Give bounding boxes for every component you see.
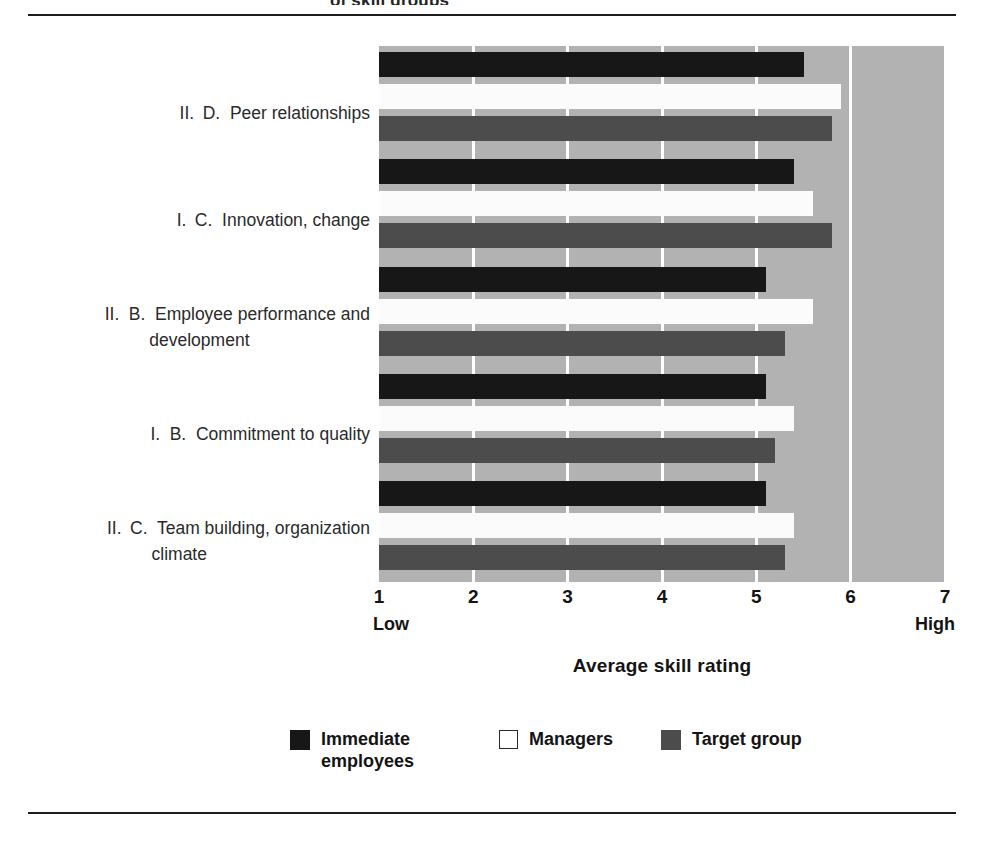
bar-band <box>379 223 945 248</box>
category-letter: C. <box>186 207 212 233</box>
x-tick-label-1: 1 <box>374 586 385 608</box>
category-text: Innovation, change <box>212 207 370 233</box>
legend-swatch-immediate-employees <box>290 730 310 750</box>
bar-band <box>379 299 945 324</box>
bar-band <box>379 374 945 399</box>
category-letter: C. <box>122 515 148 541</box>
bar-band <box>379 267 945 292</box>
category-text: Employee performance and <box>145 301 370 327</box>
legend-swatch-target-group <box>661 730 681 750</box>
x-tick-label-3: 3 <box>562 586 573 608</box>
axis-high-cap: High <box>915 614 955 635</box>
bar-immediate-employees-group-1 <box>379 52 804 77</box>
bar-immediate-employees-group-2 <box>379 159 794 184</box>
category-letter: D. <box>194 100 220 126</box>
bar-target-group-group-4 <box>379 438 775 463</box>
category-label-5: II. C. Team building, organizationclimat… <box>96 515 370 567</box>
clipped-title-text: of skill groups <box>330 0 710 5</box>
chart-legend: Immediate employeesManagersTarget group <box>290 728 850 790</box>
bar-managers-group-1 <box>379 84 841 109</box>
category-text: Team building, organization <box>148 515 370 541</box>
bar-band <box>379 191 945 216</box>
x-tick-label-4: 4 <box>657 586 668 608</box>
category-label-3: II. B. Employee performance anddevelopme… <box>93 301 370 353</box>
bar-band <box>379 438 945 463</box>
category-label-4: I. B. Commitment to quality <box>134 421 370 447</box>
x-axis-title: Average skill rating <box>379 655 945 677</box>
category-text: Peer relationships <box>220 100 370 126</box>
x-axis: Low High 1234567 <box>379 586 945 646</box>
top-rule <box>28 14 956 16</box>
bar-band <box>379 545 945 570</box>
x-tick-label-7: 7 <box>940 586 951 608</box>
category-letter: B. <box>119 301 145 327</box>
category-roman: II. <box>96 515 122 541</box>
category-label-column: II. D. Peer relationshipsI. C. Innovatio… <box>30 44 370 584</box>
x-tick-label-6: 6 <box>845 586 856 608</box>
category-roman: II. <box>93 301 119 327</box>
bar-band <box>379 116 945 141</box>
bar-target-group-group-3 <box>379 331 785 356</box>
bottom-rule <box>28 812 956 814</box>
bar-immediate-employees-group-3 <box>379 267 766 292</box>
category-text-continued: climate <box>96 541 370 567</box>
bar-band <box>379 159 945 184</box>
chart-figure: of skill groups II. D. Peer relationship… <box>0 0 984 847</box>
bar-band <box>379 331 945 356</box>
category-letter: B. <box>160 421 186 447</box>
category-roman: I. <box>134 421 160 447</box>
bar-band <box>379 481 945 506</box>
category-roman: II. <box>168 100 194 126</box>
category-label-2: I. C. Innovation, change <box>160 207 370 233</box>
x-tick-label-2: 2 <box>468 586 479 608</box>
bar-managers-group-3 <box>379 299 813 324</box>
bar-immediate-employees-group-4 <box>379 374 766 399</box>
plot-area <box>379 46 945 582</box>
legend-label-immediate-employees: Immediate employees <box>321 728 451 772</box>
bar-target-group-group-1 <box>379 116 832 141</box>
legend-swatch-managers <box>499 730 518 749</box>
bar-target-group-group-2 <box>379 223 832 248</box>
legend-label-managers: Managers <box>529 728 613 750</box>
bar-managers-group-2 <box>379 191 813 216</box>
bar-immediate-employees-group-5 <box>379 481 766 506</box>
legend-item-target-group[interactable]: Target group <box>661 728 802 750</box>
category-text-continued: development <box>93 327 370 353</box>
bar-managers-group-5 <box>379 513 794 538</box>
category-label-1: II. D. Peer relationships <box>168 100 370 126</box>
x-tick-label-5: 5 <box>751 586 762 608</box>
bar-band <box>379 84 945 109</box>
legend-item-immediate-employees[interactable]: Immediate employees <box>290 728 451 772</box>
category-text: Commitment to quality <box>186 421 370 447</box>
bar-band <box>379 513 945 538</box>
legend-item-managers[interactable]: Managers <box>499 728 613 750</box>
legend-label-target-group: Target group <box>692 728 802 750</box>
bar-band <box>379 406 945 431</box>
bar-band <box>379 52 945 77</box>
axis-low-cap: Low <box>373 614 409 635</box>
category-roman: I. <box>160 207 186 233</box>
bar-target-group-group-5 <box>379 545 785 570</box>
bar-managers-group-4 <box>379 406 794 431</box>
